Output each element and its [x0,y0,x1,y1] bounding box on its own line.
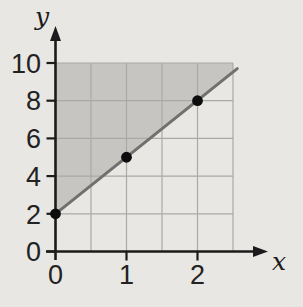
y-axis-label: y [35,4,49,29]
graph-figure: 0246810012 y x [0,0,303,307]
graph-canvas: 0246810012 [0,0,303,307]
y-tick-label: 0 [26,237,41,267]
y-tick-label: 8 [26,86,41,116]
y-axis-arrowhead [50,26,61,41]
x-axis-label: x [272,249,286,274]
data-point [121,152,132,163]
x-tick-label: 0 [48,260,63,290]
x-axis-arrowhead [253,246,268,257]
data-point [192,95,203,106]
y-tick-label: 10 [11,49,41,79]
y-tick-label: 4 [26,162,41,192]
x-tick-label: 2 [190,260,205,290]
y-tick-label: 6 [26,124,41,154]
y-tick-label: 2 [26,200,41,230]
x-tick-label: 1 [119,260,134,290]
data-point [50,208,61,219]
